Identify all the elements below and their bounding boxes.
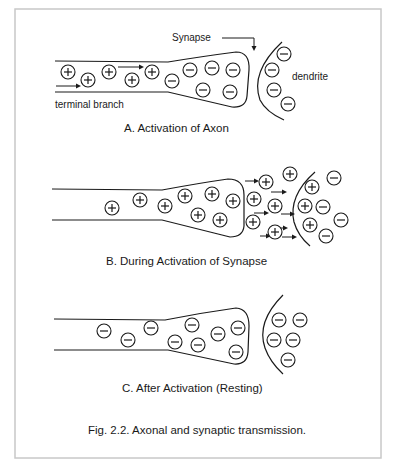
negative-ion-icon: [121, 333, 135, 347]
negative-ion-icon: [277, 47, 291, 61]
negative-ion-icon: [191, 338, 205, 352]
negative-ion-icon: [319, 229, 333, 243]
negative-ion-icon: [183, 63, 197, 77]
dendrite-label: dendrite: [292, 71, 329, 82]
negative-ion-icon: [281, 353, 295, 367]
positive-ion-icon: [81, 73, 95, 87]
terminal-branch-label: terminal branch: [55, 99, 124, 110]
positive-ion-icon: [125, 73, 139, 87]
positive-ion-icon: [191, 208, 205, 222]
positive-ion-icon: [145, 65, 159, 79]
negative-ion-icon: [293, 313, 307, 327]
positive-ion-icon: [158, 199, 172, 213]
panel-c-title: C. After Activation (Resting): [122, 382, 263, 394]
negative-ion-icon: [272, 313, 286, 327]
negative-ion-icon: [226, 63, 240, 77]
negative-ion-icon: [267, 83, 281, 97]
positive-ion-icon: [102, 65, 116, 79]
figure-caption: Fig. 2.2. Axonal and synaptic transmissi…: [88, 424, 306, 436]
negative-ion-icon: [168, 335, 182, 349]
positive-ion-icon: [105, 201, 119, 215]
positive-ion-icon: [305, 180, 319, 194]
positive-ion-icon: [259, 175, 273, 189]
negative-ion-icon: [229, 345, 243, 359]
positive-ion-icon: [298, 199, 312, 213]
negative-ion-icon: [231, 321, 245, 335]
negative-ion-icon: [185, 318, 199, 332]
negative-ion-icon: [334, 213, 348, 227]
positive-ion-icon: [268, 199, 282, 213]
negative-ion-icon: [144, 321, 158, 335]
negative-ion-icon: [165, 74, 179, 88]
positive-ion-icon: [178, 189, 192, 203]
negative-ion-icon: [97, 324, 111, 338]
synapse-label: Synapse: [172, 32, 211, 43]
negative-ion-icon: [286, 333, 300, 347]
positive-ion-icon: [268, 225, 282, 239]
negative-ion-icon: [211, 327, 225, 341]
positive-ion-icon: [246, 215, 260, 229]
negative-ion-icon: [223, 85, 237, 99]
positive-ion-icon: [303, 218, 317, 232]
panel-b-title: B. During Activation of Synapse: [106, 255, 267, 267]
positive-ion-icon: [61, 65, 75, 79]
negative-ion-icon: [196, 83, 210, 97]
negative-ion-icon: [205, 61, 219, 75]
positive-ion-icon: [247, 192, 261, 206]
positive-ion-icon: [283, 167, 297, 181]
synaptic-transmission-figure: Synapse dendrite terminal branch A. Acti…: [0, 0, 397, 468]
negative-ion-icon: [267, 333, 281, 347]
positive-ion-icon: [213, 213, 227, 227]
panel-a-title: A. Activation of Axon: [124, 122, 229, 134]
negative-ion-icon: [327, 171, 341, 185]
negative-ion-icon: [281, 97, 295, 111]
negative-ion-icon: [316, 200, 330, 214]
positive-ion-icon: [133, 193, 147, 207]
positive-ion-icon: [226, 194, 240, 208]
positive-ion-icon: [205, 187, 219, 201]
negative-ion-icon: [265, 63, 279, 77]
